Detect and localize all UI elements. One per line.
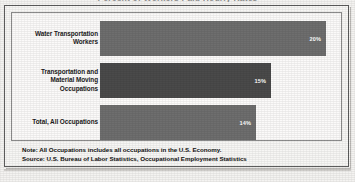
bar-label-line: Material Moving [16,76,98,84]
bar-value-label: 14% [240,120,252,126]
bar-label-line: Workers [16,38,98,46]
bar-value-label: 15% [255,78,267,84]
bar-label-line: Water Transportation [16,30,98,38]
footnote-source: Source: U.S. Bureau of Labor Statistics,… [22,155,342,164]
bar-label: Water Transportation Workers [16,30,98,47]
chart-figure: Percent of Workers Paid Hourly Rates Wat… [0,0,355,182]
bar-row: Water Transportation Workers 20% [12,21,343,56]
footnote-block: Note: All Occupations includes all occup… [22,146,342,163]
plot-area: Water Transportation Workers 20% Transpo… [11,12,342,141]
chart-title-clipped: Percent of Workers Paid Hourly Rates [0,0,355,2]
bar-value-label: 20% [310,36,322,42]
page-edge-shadow [4,169,351,171]
footnote-note: Note: All Occupations includes all occup… [22,146,342,155]
bars-layer: Water Transportation Workers 20% Transpo… [12,13,343,142]
bar-rect-total-all-occupations[interactable]: 14% [100,105,256,140]
bar-row: Transportation and Material Moving Occup… [12,63,343,98]
bar-label-line: Total, All Occupations [16,118,98,126]
bar-label: Total, All Occupations [16,118,98,126]
bar-rect-transportation-material-moving[interactable]: 15% [100,63,271,98]
bar-label-line: Transportation and [16,68,98,76]
bar-row: Total, All Occupations 14% [12,105,343,140]
bar-label-line: Occupations [16,85,98,93]
bar-rect-water-transportation-workers[interactable]: 20% [100,21,326,56]
bar-label: Transportation and Material Moving Occup… [16,68,98,93]
